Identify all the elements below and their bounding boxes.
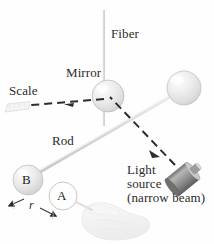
hand-illustration [82,203,150,240]
reflected-light-beam [20,99,104,107]
label-light-source-line3: (narrow beam) [127,191,205,205]
label-light-source-line1: Light [127,162,156,177]
label-fiber: Fiber [111,27,139,41]
right-sphere [167,71,201,105]
label-light-source: Light source (narrow beam) [127,163,205,204]
label-sphere-b: B [22,172,31,188]
incident-light-beam [110,97,175,165]
label-sphere-a: A [57,188,66,204]
label-distance-r: r [29,199,34,212]
physics-diagram-cavendish-balance: Fiber Mirror Scale Rod Light source (nar… [0,0,214,244]
scale-ruler [5,102,30,113]
label-mirror: Mirror [66,66,101,80]
label-rod: Rod [52,134,74,148]
label-light-source-line2: source [127,177,205,191]
label-scale: Scale [9,84,38,98]
